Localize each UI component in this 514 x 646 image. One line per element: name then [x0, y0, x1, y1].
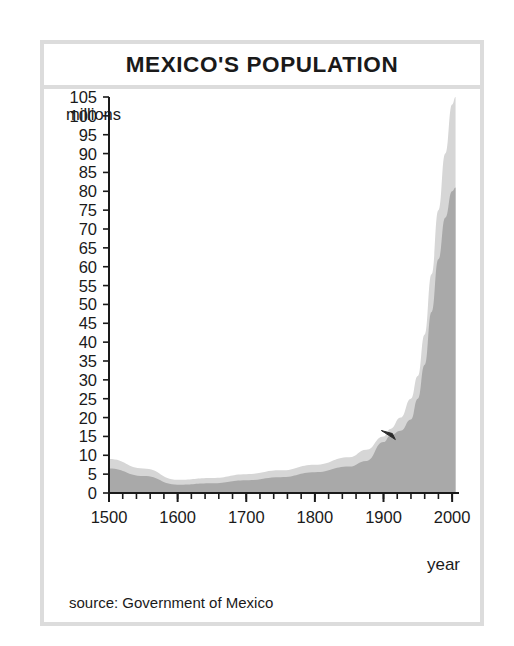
y-tick-label-55: 55	[79, 277, 97, 295]
x-tick-label-1800: 1800	[297, 508, 334, 526]
area-series-1	[109, 188, 456, 493]
y-tick-label-5: 5	[88, 465, 97, 483]
plot-area: millions 0510152025303540455055606570758…	[44, 89, 480, 626]
x-tick-label-1500: 1500	[91, 508, 128, 526]
y-tick-label-20: 20	[79, 409, 97, 427]
y-tick-label-0: 0	[88, 484, 97, 502]
y-tick-label-85: 85	[79, 163, 97, 181]
x-tick-label-1900: 1900	[365, 508, 402, 526]
y-tick-label-50: 50	[79, 295, 97, 313]
x-tick-label-2000: 2000	[434, 508, 471, 526]
y-tick-label-10: 10	[79, 446, 97, 464]
chart-svg: 0510152025303540455055606570758085909510…	[44, 89, 480, 589]
chart-title-bar: MEXICO'S POPULATION	[44, 44, 480, 89]
y-tick-label-100: 100	[69, 107, 97, 125]
page-title: MEXICO'S POPULATION	[126, 52, 399, 78]
chart-figure: MEXICO'S POPULATION millions 05101520253…	[40, 40, 484, 626]
x-tick-label-1700: 1700	[228, 508, 265, 526]
x-tick-label-1600: 1600	[159, 508, 196, 526]
y-tick-label-35: 35	[79, 352, 97, 370]
x-axis-title: year	[427, 555, 460, 575]
y-tick-label-95: 95	[79, 126, 97, 144]
y-tick-label-25: 25	[79, 390, 97, 408]
y-tick-label-70: 70	[79, 220, 97, 238]
y-tick-label-65: 65	[79, 239, 97, 257]
y-tick-label-60: 60	[79, 258, 97, 276]
source-note: source: Government of Mexico	[69, 594, 273, 611]
y-tick-label-40: 40	[79, 333, 97, 351]
y-tick-label-45: 45	[79, 314, 97, 332]
y-tick-label-15: 15	[79, 427, 97, 445]
area-series-layer	[109, 97, 456, 493]
y-tick-label-30: 30	[79, 371, 97, 389]
y-tick-label-105: 105	[69, 89, 97, 106]
y-tick-label-80: 80	[79, 182, 97, 200]
y-tick-label-90: 90	[79, 145, 97, 163]
y-tick-label-75: 75	[79, 201, 97, 219]
